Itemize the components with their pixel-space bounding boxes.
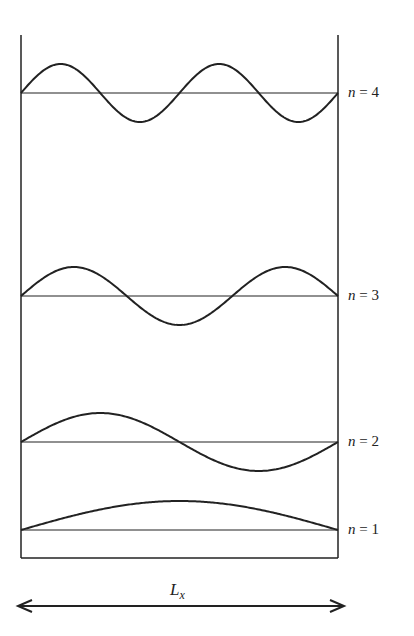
length-label: Lx — [170, 580, 185, 603]
mode-label-n4: n = 4 — [348, 84, 379, 101]
mode-label-n1: n = 1 — [348, 521, 379, 538]
mode-label-n2: n = 2 — [348, 433, 379, 450]
wave-n1 — [21, 501, 338, 530]
mode-label-n3: n = 3 — [348, 287, 379, 304]
